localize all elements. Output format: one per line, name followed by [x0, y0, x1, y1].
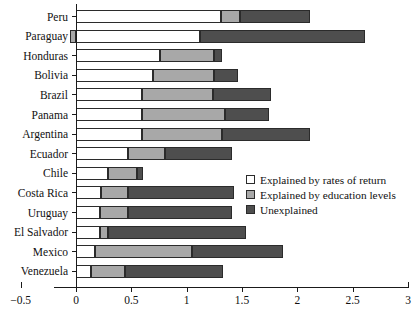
- bar-segment: [214, 49, 222, 62]
- category-label: El Salvador: [14, 226, 68, 238]
- x-axis-tick: [408, 282, 409, 288]
- x-axis-tick: [76, 287, 77, 292]
- legend-item: Unexplained: [246, 203, 414, 216]
- x-axis-tick-label: 0.5: [124, 294, 138, 306]
- category-label: Uruguay: [28, 207, 68, 219]
- bar-row: [76, 49, 408, 62]
- category-label: Venezuela: [21, 265, 68, 277]
- bar-segment: [76, 10, 221, 23]
- x-axis-tick: [131, 287, 132, 292]
- bar-segment: [128, 186, 234, 199]
- legend-item: Explained by rates of return: [246, 173, 414, 186]
- category-axis-labels: PeruParaguayHondurasBoliviaBrazilPanamaA…: [0, 0, 72, 290]
- bar-segment: [76, 245, 95, 258]
- bar-segment: [165, 147, 233, 160]
- x-axis-tick-label: 2.5: [345, 294, 359, 306]
- bar-segment: [213, 88, 271, 101]
- bar-segment: [76, 226, 100, 239]
- bar-segment: [76, 265, 91, 278]
- bar-segment: [76, 147, 128, 160]
- legend-swatch-icon: [246, 205, 255, 214]
- bar-segment: [76, 206, 100, 219]
- bar-segment: [192, 245, 283, 258]
- category-label: Ecuador: [30, 148, 68, 160]
- bar-segment: [128, 206, 232, 219]
- bar-segment: [125, 265, 223, 278]
- bar-row: [76, 10, 408, 23]
- bar-segment: [76, 69, 153, 82]
- bar-segment: [108, 226, 246, 239]
- bar-row: [76, 128, 408, 141]
- bar-segment: [76, 30, 200, 43]
- bar-segment: [142, 108, 225, 121]
- bar-segment: [101, 186, 128, 199]
- bar-segment: [153, 69, 214, 82]
- legend-label: Explained by rates of return: [260, 174, 386, 186]
- legend-label: Explained by education levels: [260, 189, 396, 201]
- bar-segment: [76, 49, 160, 62]
- category-label: Peru: [47, 11, 68, 23]
- bar-row: [76, 88, 408, 101]
- bar-segment: [91, 265, 124, 278]
- bar-segment: [142, 128, 222, 141]
- category-label: Paraguay: [25, 30, 68, 42]
- bar-segment: [100, 206, 128, 219]
- plot-area: [76, 4, 408, 287]
- stacked-bar-chart: PeruParaguayHondurasBoliviaBrazilPanamaA…: [0, 0, 419, 314]
- x-axis-tick: [297, 287, 298, 292]
- x-axis-tick-label: 3: [405, 294, 411, 306]
- x-axis-tick-label: 1.5: [235, 294, 249, 306]
- legend-swatch-icon: [246, 175, 255, 184]
- bar-row: [76, 226, 408, 239]
- bar-row: [76, 108, 408, 121]
- bar-segment: [128, 147, 165, 160]
- bar-segment: [76, 108, 142, 121]
- bar-row: [76, 69, 408, 82]
- y-axis-line: [76, 4, 77, 287]
- category-label: Honduras: [23, 50, 68, 62]
- x-axis-line: [54, 287, 409, 288]
- category-label: Panama: [32, 109, 68, 121]
- bar-segment: [137, 167, 144, 180]
- x-axis-tick: [21, 282, 22, 288]
- x-axis-tick-label: 2: [294, 294, 300, 306]
- legend-item: Explained by education levels: [246, 188, 414, 201]
- bar-segment: [240, 10, 310, 23]
- category-label: Bolivia: [34, 69, 68, 81]
- x-axis-tick: [353, 287, 354, 292]
- x-axis-tick-label: 0: [73, 294, 79, 306]
- bar-segment: [142, 88, 213, 101]
- bar-row: [76, 147, 408, 160]
- category-label: Costa Rica: [18, 187, 68, 199]
- bar-segment: [76, 167, 108, 180]
- bar-segment: [200, 30, 365, 43]
- bar-segment: [100, 226, 108, 239]
- bar-segment: [108, 167, 137, 180]
- bar-segment: [221, 10, 240, 23]
- legend-label: Unexplained: [260, 204, 318, 216]
- x-axis-tick-label: 1: [184, 294, 190, 306]
- bar-row: [76, 265, 408, 278]
- bar-segment: [225, 108, 268, 121]
- bar-segment: [222, 128, 309, 141]
- bar-segment: [76, 88, 142, 101]
- bar-segment: [76, 128, 142, 141]
- bar-segment: [76, 186, 101, 199]
- category-label: Brazil: [40, 89, 68, 101]
- bar-segment: [160, 49, 214, 62]
- category-label: Argentina: [22, 128, 68, 140]
- category-label: Chile: [43, 167, 68, 179]
- category-label: Mexico: [33, 246, 68, 258]
- bar-row: [76, 245, 408, 258]
- x-axis-tick: [242, 287, 243, 292]
- bar-row: [76, 30, 408, 43]
- x-axis-tick-label: −0.5: [10, 294, 31, 306]
- bar-segment: [214, 69, 237, 82]
- x-axis-tick: [187, 287, 188, 292]
- legend-swatch-icon: [246, 190, 255, 199]
- chart-legend: Explained by rates of returnExplained by…: [246, 173, 414, 218]
- bar-segment: [95, 245, 192, 258]
